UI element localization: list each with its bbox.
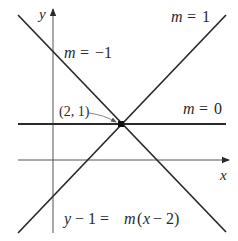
point-slope-equation: y − 1 = m ( x − 2) xyxy=(62,210,179,228)
slope-label-0: m = 0 xyxy=(183,100,222,117)
slope-eq: = xyxy=(199,100,208,117)
point-leader-arrow xyxy=(89,113,116,122)
eq-minus-1: − 1 = xyxy=(75,210,109,227)
slope-value: −1 xyxy=(95,44,112,61)
slope-var: m xyxy=(183,100,195,117)
slope-label-1: m = 1 xyxy=(171,8,210,25)
eq-m: m xyxy=(124,210,136,227)
eq-open-paren: ( xyxy=(137,210,142,228)
intersection-point xyxy=(118,121,124,127)
slope-value: 0 xyxy=(214,100,222,117)
x-axis-label: x xyxy=(219,167,227,183)
eq-x: x xyxy=(142,210,150,227)
slope-label-neg1: m = −1 xyxy=(64,44,112,61)
family-of-lines-diagram: y x (2, 1) m = 1 m = −1 m = 0 y − 1 = m … xyxy=(0,0,238,241)
point-label: (2, 1) xyxy=(59,104,90,120)
slope-eq: = xyxy=(80,44,89,61)
eq-minus-2: − 2) xyxy=(153,210,179,228)
slope-var: m xyxy=(171,8,183,25)
slope-value: 1 xyxy=(202,8,210,25)
slope-eq: = xyxy=(187,8,196,25)
eq-y: y xyxy=(62,210,72,228)
slope-var: m xyxy=(64,44,76,61)
y-axis-label: y xyxy=(37,6,46,22)
